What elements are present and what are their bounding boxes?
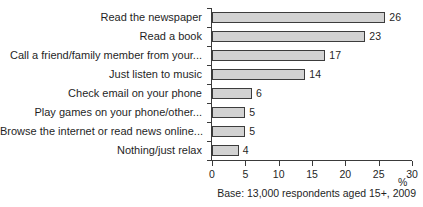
bar: [212, 126, 245, 137]
y-axis-tick: [207, 141, 212, 142]
bar-value-label: 5: [249, 106, 255, 118]
bar: [212, 107, 245, 118]
x-axis-tick-label: 0: [200, 168, 224, 180]
plot-area: 26 23 17 14 6 5 5 4 %: [212, 8, 412, 160]
bar-row: 14: [212, 65, 412, 84]
x-axis-tick: [212, 161, 213, 166]
category-label: Read the newspaper: [0, 8, 207, 27]
category-label: Play games on your phone/other...: [0, 103, 207, 122]
bar: [212, 12, 385, 23]
bar-row: 26: [212, 8, 412, 27]
x-axis-tick-label: 20: [333, 168, 357, 180]
bar-value-label: 5: [249, 125, 255, 137]
category-label-column: Read the newspaper Read a book Call a fr…: [0, 8, 207, 160]
bar: [212, 50, 325, 61]
bar-chart: Read the newspaper Read a book Call a fr…: [0, 0, 423, 207]
bar-row: 4: [212, 141, 412, 160]
bar-row: 23: [212, 27, 412, 46]
bar-row: 5: [212, 122, 412, 141]
bar-row: 17: [212, 46, 412, 65]
x-axis-tick: [345, 161, 346, 166]
y-axis-tick: [207, 103, 212, 104]
x-axis-tick-label: 30: [400, 168, 423, 180]
x-axis-tick-label: 5: [233, 168, 257, 180]
bar-value-label: 26: [389, 11, 401, 23]
bar: [212, 88, 252, 99]
y-axis-tick: [207, 65, 212, 66]
x-axis-tick: [245, 161, 246, 166]
y-axis-tick: [207, 46, 212, 47]
x-axis-tick: [412, 161, 413, 166]
y-axis-tick: [207, 122, 212, 123]
category-label: Call a friend/family member from your...: [0, 46, 207, 65]
bar-value-label: 17: [329, 49, 341, 61]
x-axis-tick-label: 15: [300, 168, 324, 180]
bar-value-label: 23: [369, 30, 381, 42]
bar-row: 6: [212, 84, 412, 103]
base-note: Base: 13,000 respondents aged 15+, 2009: [0, 187, 416, 200]
bar-row: 5: [212, 103, 412, 122]
y-axis-tick: [207, 27, 212, 28]
category-label: Just listen to music: [0, 65, 207, 84]
x-axis-tick: [379, 161, 380, 166]
bar-value-label: 4: [243, 144, 249, 156]
bar: [212, 31, 365, 42]
x-axis-tick: [312, 161, 313, 166]
category-label: Browse the internet or read news online.…: [0, 122, 207, 141]
x-axis-tick-label: 10: [267, 168, 291, 180]
category-label: Read a book: [0, 27, 207, 46]
category-label: Nothing/just relax: [0, 141, 207, 160]
bar: [212, 69, 305, 80]
bar: [212, 145, 239, 156]
category-label: Check email on your phone: [0, 84, 207, 103]
y-axis-tick: [207, 8, 212, 9]
x-axis-tick: [279, 161, 280, 166]
bar-value-label: 14: [309, 68, 321, 80]
y-axis-tick: [207, 84, 212, 85]
x-axis-tick-label: 25: [367, 168, 391, 180]
bar-value-label: 6: [256, 87, 262, 99]
